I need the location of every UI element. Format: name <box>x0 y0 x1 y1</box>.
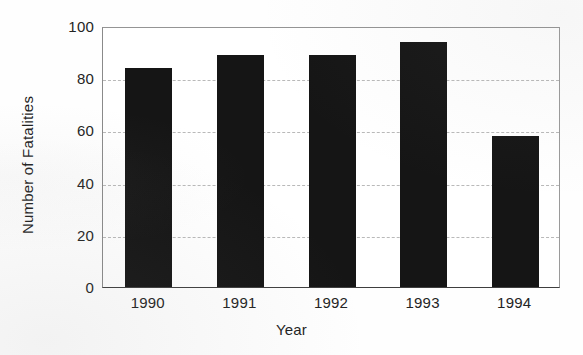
bar-1993 <box>400 42 447 287</box>
bar-1990 <box>125 68 172 287</box>
bar-1994 <box>492 136 539 287</box>
y-axis-tick-labels: 020406080100 <box>48 0 94 355</box>
y-tick-label-0: 0 <box>50 280 94 295</box>
bar-chart-figure: Number of Fatalities 020406080100 199019… <box>0 0 583 355</box>
y-tick-label-100: 100 <box>50 19 94 34</box>
y-tick-label-80: 80 <box>50 71 94 86</box>
y-axis-title: Number of Fatalities <box>20 55 36 275</box>
y-tick-label-60: 60 <box>50 123 94 138</box>
x-tick-label-1993: 1993 <box>378 295 468 311</box>
x-tick-label-1994: 1994 <box>469 295 559 311</box>
y-tick-label-40: 40 <box>50 176 94 191</box>
bar-1991 <box>217 55 264 287</box>
x-tick-label-1992: 1992 <box>286 295 376 311</box>
x-tick-label-1990: 1990 <box>103 295 193 311</box>
bar-1992 <box>309 55 356 287</box>
x-axis-title: Year <box>0 322 583 338</box>
plot-area <box>102 27 560 288</box>
y-tick-label-20: 20 <box>50 228 94 243</box>
x-tick-label-1991: 1991 <box>194 295 284 311</box>
